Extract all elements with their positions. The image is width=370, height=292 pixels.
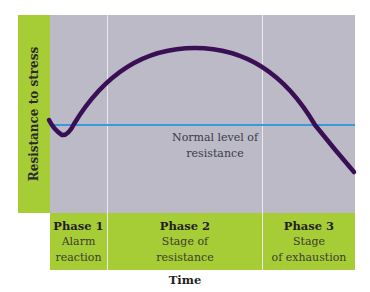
phase-3-line2: of exhaustion bbox=[272, 250, 347, 266]
phase-2-line2: resistance bbox=[156, 250, 213, 266]
phase-1-title: Phase 1 bbox=[53, 218, 103, 234]
x-axis-label: Time bbox=[0, 273, 370, 287]
phase-2-line1: Stage of bbox=[162, 234, 208, 250]
phase-3-title: Phase 3 bbox=[284, 218, 334, 234]
phase-1: Phase 1 Alarm reaction bbox=[50, 213, 107, 270]
phase-3: Phase 3 Stage of exhaustion bbox=[263, 213, 355, 270]
phase-3-line1: Stage bbox=[293, 234, 325, 250]
baseline-label-line2: resistance bbox=[140, 146, 290, 162]
phase-2-title: Phase 2 bbox=[160, 218, 210, 234]
phase-1-line2: reaction bbox=[55, 250, 101, 266]
baseline-label-line1: Normal level of bbox=[140, 130, 290, 146]
baseline-label: Normal level of resistance bbox=[140, 130, 290, 162]
phase-2: Phase 2 Stage of resistance bbox=[108, 213, 262, 270]
phase-1-line1: Alarm bbox=[62, 234, 96, 250]
